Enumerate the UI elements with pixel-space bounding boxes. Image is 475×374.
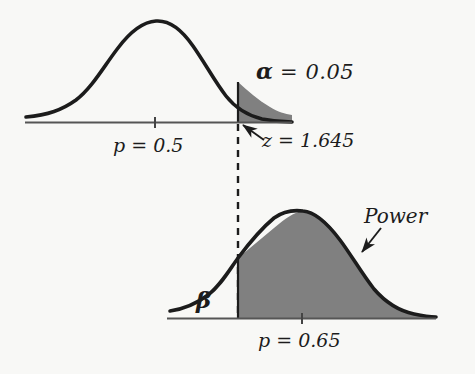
null-distribution-group xyxy=(25,21,292,128)
alpha-shaded-region xyxy=(238,82,292,122)
power-diagram-canvas xyxy=(0,0,475,374)
power-diagram-figure: α = 0.05 z = 1.645 p = 0.5 β p = 0.65 Po… xyxy=(0,0,475,374)
beta-label: β xyxy=(196,288,211,311)
power-label: Power xyxy=(364,206,427,226)
alpha-equation: = 0.05 xyxy=(273,60,354,84)
critical-value-label: z = 1.645 xyxy=(262,131,354,150)
alpha-symbol: α xyxy=(256,58,273,84)
alt-mean-label: p = 0.65 xyxy=(258,331,340,350)
alpha-label: α = 0.05 xyxy=(256,60,354,83)
null-mean-label: p = 0.5 xyxy=(113,136,183,155)
z-label-arrow xyxy=(243,125,264,140)
power-label-arrow xyxy=(362,228,381,252)
